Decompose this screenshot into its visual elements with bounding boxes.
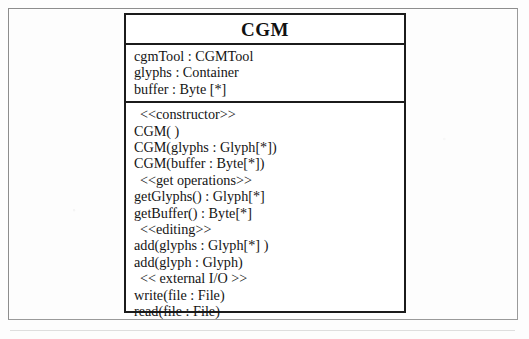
operation-row: CGM( )	[126, 123, 404, 139]
attribute-row: buffer : Byte [*]	[126, 81, 404, 97]
operation-row: CGM(glyphs : Glyph[*])	[126, 139, 404, 155]
attribute-row: glyphs : Container	[126, 64, 404, 80]
operation-row: getGlyphs() : Glyph[*]	[126, 188, 404, 204]
operation-row: read(file : File)	[126, 303, 404, 319]
attribute-row: cgmTool : CGMTool	[126, 48, 404, 64]
operation-row: getBuffer() : Byte[*]	[126, 205, 404, 221]
operation-stereotype-label: <<get operations>>	[126, 172, 404, 188]
operation-row: add(glyphs : Glyph[*] )	[126, 237, 404, 253]
operation-stereotype-label: <<constructor>>	[126, 106, 404, 122]
operation-stereotype-label: <<editing>>	[126, 221, 404, 237]
class-name-compartment: CGM	[126, 15, 404, 45]
class-operations-compartment: <<constructor>> CGM( ) CGM(glyphs : Glyp…	[126, 103, 404, 323]
operation-row: CGM(buffer : Byte[*])	[126, 155, 404, 171]
operation-stereotype-label: << external I/O >>	[126, 270, 404, 286]
class-name: CGM	[241, 20, 289, 39]
uml-class-box[interactable]: CGM cgmTool : CGMTool glyphs : Container…	[124, 13, 406, 313]
operation-row: write(file : File)	[126, 287, 404, 303]
scan-artifact-line	[10, 330, 515, 331]
operation-row: add(glyph : Glyph)	[126, 254, 404, 270]
class-attributes-compartment: cgmTool : CGMTool glyphs : Container buf…	[126, 45, 404, 103]
